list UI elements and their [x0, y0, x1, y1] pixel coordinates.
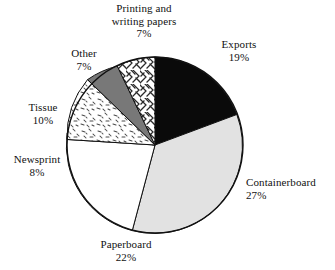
pie-label-other: Other 7% [56, 47, 112, 72]
pie-label-printing-and-writing-papers: Printing and writing papers 7% [84, 2, 204, 40]
pie-label-tissue-percent: 10% [12, 114, 74, 127]
pie-label-tissue: Tissue 10% [12, 101, 74, 126]
pie-label-printing-percent: 7% [84, 27, 204, 40]
pie-label-containerboard-name: Containerboard [246, 176, 335, 189]
pie-label-paperboard-name: Paperboard [78, 238, 174, 251]
pie-label-paperboard: Paperboard 22% [78, 238, 174, 263]
pie-label-printing-line2: writing papers [84, 15, 204, 28]
pie-chart: Printing and writing papers 7% Exports 1… [0, 0, 335, 270]
pie-label-containerboard-percent: 27% [246, 189, 335, 202]
pie-label-other-percent: 7% [56, 60, 112, 73]
pie-label-exports: Exports 19% [196, 38, 282, 63]
pie-label-printing-line1: Printing and [84, 2, 204, 15]
pie-label-other-name: Other [56, 47, 112, 60]
pie-label-exports-name: Exports [196, 38, 282, 51]
pie-label-exports-percent: 19% [196, 51, 282, 64]
pie-label-tissue-name: Tissue [12, 101, 74, 114]
figure-caption [20, 262, 320, 270]
pie-label-newsprint: Newsprint 8% [2, 153, 72, 178]
pie-label-containerboard: Containerboard 27% [246, 176, 335, 201]
pie-label-newsprint-name: Newsprint [2, 153, 72, 166]
pie-chart-graphic [0, 0, 335, 270]
pie-label-newsprint-percent: 8% [2, 166, 72, 179]
